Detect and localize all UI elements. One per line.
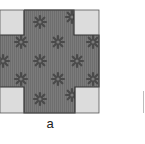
cutout-bottom-left	[0, 87, 24, 113]
flower-motif-icon	[15, 73, 27, 85]
flower-motif-icon	[34, 16, 46, 28]
adjacent-panel-edge	[143, 91, 144, 113]
cutout-top-left	[0, 10, 24, 35]
flower-motif-icon	[71, 55, 83, 67]
flower-motif-icon	[52, 36, 64, 48]
flower-motif-icon	[15, 36, 27, 48]
flower-motif-icon	[52, 73, 64, 85]
cutout-bottom-right	[75, 87, 99, 113]
cross-fabric-illustration	[0, 0, 145, 144]
flower-motif-icon	[87, 73, 99, 85]
cutout-top-right	[74, 10, 99, 35]
figure-panel-a: a	[0, 0, 145, 144]
flower-motif-icon	[34, 55, 46, 67]
panel-label: a	[44, 117, 56, 131]
flower-motif-icon	[87, 36, 99, 48]
flower-motif-icon	[34, 93, 46, 105]
